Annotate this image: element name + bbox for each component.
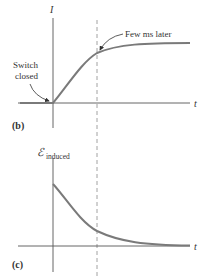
switch-closed-arrow-icon — [30, 84, 49, 101]
induced-emf-curve — [53, 184, 190, 246]
panel-c: ℰ induced t (c) — [12, 146, 197, 272]
panel-b: I t Switch closed Few ms later (b) — [12, 4, 197, 132]
diagram-canvas: I t Switch closed Few ms later (b) ℰ ind… — [0, 0, 206, 280]
panel-c-label: (c) — [12, 259, 23, 271]
panel-b-label: (b) — [12, 120, 24, 132]
panel-b-x-axis-label: t — [194, 98, 197, 109]
panel-c-y-axis-symbol: ℰ — [37, 146, 45, 158]
current-curve — [20, 43, 190, 103]
few-ms-later-annotation: Few ms later — [125, 29, 172, 39]
switch-closed-annotation-line2: closed — [15, 71, 38, 81]
panel-c-x-axis-label: t — [194, 241, 197, 252]
panel-b-y-axis-label: I — [49, 4, 54, 15]
switch-closed-annotation-line1: Switch — [13, 60, 39, 70]
panel-c-y-axis-subscript: induced — [46, 152, 70, 161]
